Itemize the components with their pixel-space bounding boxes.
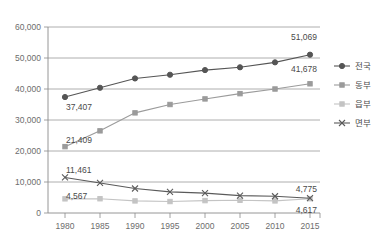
- series-0: [62, 52, 312, 100]
- data-point-filled-square: [203, 97, 207, 101]
- data-point-filled-circle: [272, 60, 277, 65]
- x-tick-1990: 1990: [126, 221, 145, 231]
- series-layer: [62, 52, 313, 204]
- legend-label: 읍부: [355, 99, 371, 109]
- data-point-filled-square: [238, 91, 242, 95]
- y-tick-60000: 60,000: [15, 22, 41, 32]
- x-tickmarks: [65, 213, 320, 218]
- data-point-light-square: [238, 198, 242, 202]
- legend-item-면부[interactable]: 면부: [334, 118, 371, 128]
- label-myeon-2015: 4,775: [296, 184, 318, 194]
- data-point-light-square: [203, 198, 207, 202]
- data-point-filled-circle: [237, 65, 242, 70]
- label-nationwide-1980: 37,407: [66, 102, 92, 112]
- x-tick-2005: 2005: [231, 221, 250, 231]
- data-point-filled-square: [133, 111, 137, 115]
- legend-label: 전국: [355, 61, 371, 71]
- line-chart: 60,000 50,000 40,000 30,000 20,000 10,00…: [0, 0, 387, 251]
- data-point-light-square: [133, 199, 137, 203]
- data-point-light-square: [168, 199, 172, 203]
- data-point-filled-square: [168, 102, 172, 106]
- y-tick-20000: 20,000: [15, 146, 41, 156]
- label-eup-2015: 4,617: [296, 205, 318, 215]
- legend-label: 동부: [355, 80, 371, 90]
- data-point-light-square: [98, 197, 102, 201]
- y-tick-30000: 30,000: [15, 115, 41, 125]
- data-point-filled-circle: [132, 76, 137, 81]
- y-tick-10000: 10,000: [15, 177, 41, 187]
- data-point-filled-circle: [167, 72, 172, 77]
- legend-item-전국[interactable]: 전국: [334, 61, 371, 71]
- legend-label: 면부: [355, 118, 371, 128]
- x-tick-2000: 2000: [196, 221, 215, 231]
- x-tick-2010: 2010: [266, 221, 285, 231]
- x-tick-1985: 1985: [91, 221, 110, 231]
- legend-marker-filled-circle: [339, 63, 344, 68]
- data-point-filled-circle: [97, 85, 102, 90]
- x-tick-2015: 2015: [301, 221, 320, 231]
- data-point-filled-circle: [62, 94, 67, 99]
- legend-item-동부[interactable]: 동부: [334, 80, 371, 90]
- data-point-light-square: [273, 199, 277, 203]
- label-dong-1980: 21,409: [66, 135, 92, 145]
- x-tick-1980: 1980: [56, 221, 75, 231]
- label-dong-2015: 41,678: [291, 64, 317, 74]
- data-point-filled-square: [98, 129, 102, 133]
- data-point-filled-square: [273, 87, 277, 91]
- y-tick-50000: 50,000: [15, 53, 41, 63]
- label-eup-1980: 4,567: [66, 191, 88, 201]
- y-tickmarks: [44, 27, 48, 213]
- y-tick-40000: 40,000: [15, 84, 41, 94]
- y-tick-0: 0: [36, 208, 41, 218]
- chart-container: 60,000 50,000 40,000 30,000 20,000 10,00…: [0, 0, 387, 251]
- series-1: [63, 82, 312, 149]
- series-2: [63, 196, 312, 203]
- x-tick-1995: 1995: [161, 221, 180, 231]
- label-nationwide-2015: 51,069: [291, 32, 317, 42]
- legend-marker-light-square: [340, 102, 344, 106]
- legend-item-읍부[interactable]: 읍부: [334, 99, 371, 109]
- y-axis-labels: 60,000 50,000 40,000 30,000 20,000 10,00…: [15, 22, 41, 218]
- series-line: [65, 84, 310, 147]
- label-myeon-1980: 11,461: [66, 165, 92, 175]
- chart-legend: 전국동부읍부면부: [334, 61, 371, 128]
- x-axis-labels: 1980 1985 1990 1995 2000 2005 2010 2015: [56, 221, 320, 231]
- point-value-labels: 37,407 51,069 21,409 41,678 11,461 4,775…: [66, 32, 317, 215]
- data-point-filled-circle: [202, 67, 207, 72]
- data-point-filled-square: [63, 144, 67, 148]
- data-point-filled-square: [308, 82, 312, 86]
- data-point-filled-circle: [307, 52, 312, 57]
- legend-marker-filled-square: [340, 83, 344, 87]
